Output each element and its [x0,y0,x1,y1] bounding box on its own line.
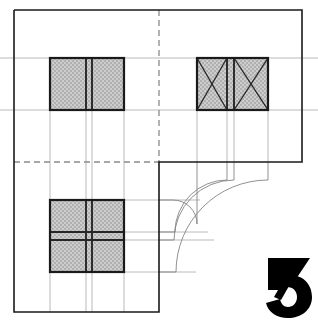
bottom-left-quad-panel [50,200,124,272]
bottom-left-panel-fill [50,200,124,272]
top-right-panel-fill [197,58,268,110]
arc-third [159,162,234,240]
arc-outer [159,162,268,272]
top-right-double-leaf-window [197,58,268,110]
arc-group [159,162,268,272]
top-left-panel-fill [50,58,124,110]
numeral-three-logo [266,258,312,318]
technical-drawing [0,0,318,324]
drawing-canvas [0,0,318,324]
top-left-double-panel [50,58,124,110]
arc-second [159,162,227,232]
